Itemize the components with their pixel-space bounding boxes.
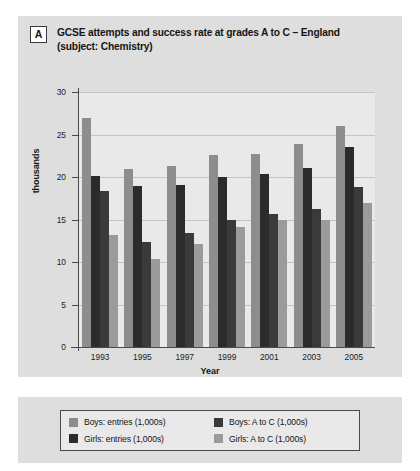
bar [354,187,363,347]
bar [363,203,372,348]
bar [167,166,176,347]
bar-groups [79,92,375,347]
bar [133,186,142,348]
bar [218,177,227,347]
legend-swatch [214,418,223,427]
y-tick-mark [72,305,78,306]
y-tick-mark [72,177,78,178]
y-tick-mark [72,135,78,136]
bar [142,242,151,347]
y-tick-label: 10 [18,257,66,267]
y-tick-mark [72,92,78,93]
bar [294,144,303,347]
bar-group [336,92,372,347]
plot-wrapper: thousands 051015202530 19931995199719992… [18,16,402,377]
bar [227,220,236,348]
y-axis-title: thousands [31,126,41,216]
bar [251,154,260,347]
y-tick-label: 20 [18,172,66,182]
y-tick-label: 5 [18,300,66,310]
bar [303,168,312,347]
x-tick-label: 1997 [165,352,205,362]
bar [336,126,345,347]
y-tick-label: 0 [18,342,66,352]
y-tick-label: 25 [18,130,66,140]
x-axis-title: Year [18,366,402,376]
bar [278,220,287,348]
bar-group [82,92,118,347]
legend-grid: Boys: entries (1,000s)Boys: A to C (1,00… [61,411,359,450]
chart-panel: A GCSE attempts and success rate at grad… [18,16,402,377]
bar-group [209,92,245,347]
bar [91,176,100,347]
bar [194,244,203,347]
bar [312,209,321,347]
legend-item: Girls: entries (1,000s) [69,434,214,444]
y-tick-mark [72,220,78,221]
legend-label: Boys: entries (1,000s) [84,417,165,427]
legend-label: Girls: entries (1,000s) [84,434,164,444]
figure-root: A GCSE attempts and success rate at grad… [0,0,420,471]
legend-label: Boys: A to C (1,000s) [229,417,308,427]
x-tick-label: 1995 [122,352,162,362]
bar [236,227,245,347]
legend-item: Boys: A to C (1,000s) [214,417,359,427]
bar-group [294,92,330,347]
legend-box: Boys: entries (1,000s)Boys: A to C (1,00… [60,410,360,451]
y-tick-label: 30 [18,87,66,97]
x-tick-label: 2001 [249,352,289,362]
y-tick-mark [72,262,78,263]
legend-swatch [69,418,78,427]
x-tick-label: 2003 [292,352,332,362]
bar [176,185,185,347]
bar [100,191,109,347]
bar [109,235,118,347]
x-tick-label: 2005 [334,352,374,362]
bar-group [124,92,160,347]
y-tick-label: 15 [18,215,66,225]
bar [82,118,91,348]
x-tick-label: 1993 [80,352,120,362]
legend-label: Girls: A to C (1,000s) [229,434,306,444]
bar-group [251,92,287,347]
bar [345,147,354,347]
x-axis-line [71,347,375,348]
bar [185,233,194,347]
bar-group [167,92,203,347]
legend-swatch [214,434,223,443]
legend-item: Boys: entries (1,000s) [69,417,214,427]
legend-panel: Boys: entries (1,000s)Boys: A to C (1,00… [18,397,402,463]
legend-swatch [69,434,78,443]
bar [269,214,278,347]
bar [321,220,330,348]
y-tick-mark [72,347,78,348]
bar [209,155,218,347]
bar [260,174,269,347]
x-tick-label: 1999 [207,352,247,362]
legend-item: Girls: A to C (1,000s) [214,434,359,444]
bar [124,169,133,348]
bar [151,259,160,347]
